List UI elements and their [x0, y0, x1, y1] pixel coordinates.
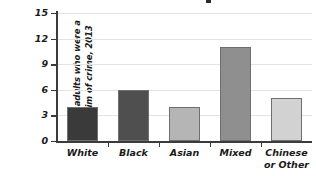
bar — [118, 90, 149, 141]
category-label: Chineseor Other — [261, 147, 312, 171]
y-tick-label: 12 — [24, 33, 48, 44]
category-label-line: Chinese — [261, 147, 312, 159]
y-tick-label: 9 — [24, 58, 48, 69]
category-label-line: or Other — [261, 159, 312, 171]
bar-chart: % of adults who were a victim of crime, … — [0, 0, 316, 176]
category-label-line: Black — [108, 147, 159, 159]
bar — [67, 107, 98, 141]
category-label: Black — [108, 147, 159, 159]
category-label-line: Asian — [159, 147, 210, 159]
category-label: Mixed — [210, 147, 261, 159]
bar — [220, 47, 251, 141]
y-tick-label: 3 — [24, 109, 48, 120]
y-tick-label: 0 — [24, 135, 48, 146]
bar — [169, 107, 200, 141]
bar — [271, 98, 302, 141]
bars-group — [57, 13, 312, 141]
y-axis-label: % of adults who were a victim of crime, … — [0, 0, 32, 150]
category-label: White — [57, 147, 108, 159]
category-label-line: Mixed — [210, 147, 261, 159]
x-axis-line — [56, 141, 312, 143]
y-tick-label: 15 — [24, 7, 48, 18]
cropped-title-fragment — [206, 0, 211, 3]
category-label-line: White — [57, 147, 108, 159]
category-label: Asian — [159, 147, 210, 159]
y-tick-label: 6 — [24, 84, 48, 95]
